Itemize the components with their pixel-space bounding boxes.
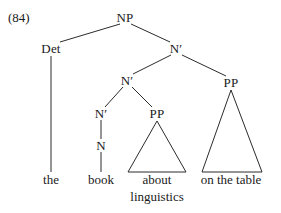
node-label-nbar2: N′	[121, 74, 134, 87]
terminal-word-book: book	[88, 173, 114, 187]
node-label-np: NP	[116, 11, 133, 24]
tree-edge	[105, 87, 123, 107]
node-label-pp2: PP	[224, 76, 239, 89]
triangle-group	[128, 90, 262, 172]
node-label-nbar1: N′	[170, 42, 183, 55]
tree-edge	[133, 55, 171, 74]
tree-edge	[131, 24, 170, 42]
tree-edge	[132, 87, 152, 107]
tree-edge	[182, 55, 226, 76]
terminal-word-the: the	[43, 173, 59, 187]
terminal-word-linguistics: linguistics	[130, 190, 183, 204]
terminal-word-onthetable: on the table	[201, 173, 262, 187]
syntax-tree-figure: (84) NPDetN′N′PPN′PPN thebookaboutlingui…	[0, 0, 281, 213]
node-label-pp1: PP	[150, 107, 165, 120]
tree-edge	[60, 24, 120, 42]
node-label-nbar3: N′	[95, 107, 108, 120]
phrase-triangle	[202, 90, 262, 172]
phrase-triangle	[128, 121, 186, 172]
node-label-n: N	[96, 139, 106, 152]
terminal-word-about: about	[143, 173, 172, 187]
node-label-det: Det	[41, 42, 60, 55]
edge-group	[51, 24, 226, 172]
